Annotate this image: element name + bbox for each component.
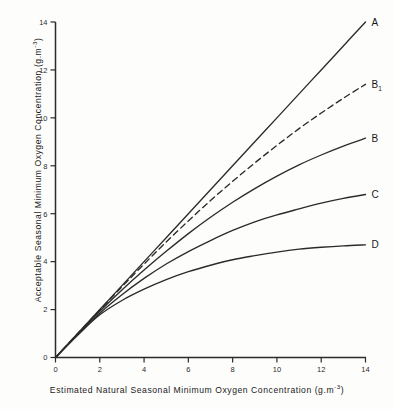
y-axis-title: Acceptable Seasonal Minimum Oxygen Conce… [31,38,43,303]
chart-figure: 02468101214 02468101214 AB1BCD Acceptabl… [0,0,394,409]
series-label-b: B [372,133,379,144]
series-end-labels: AB1BCD [372,17,383,251]
x-tick-label: 8 [231,365,235,374]
series-label-a: A [372,17,379,28]
series-line-a [56,22,366,358]
x-tick-label: 10 [273,365,281,374]
x-tick-label: 14 [361,365,369,374]
series-line-c [56,195,366,358]
y-axis-title-wrap: Acceptable Seasonal Minimum Oxygen Conce… [27,5,47,335]
series-label-b1: B1 [372,79,383,92]
x-tick-label: 2 [98,365,102,374]
x-tick-label: 4 [142,365,146,374]
series-label-c: C [372,189,379,200]
x-axis-ticks: 02468101214 [53,358,369,374]
x-axis-title: Estimated Natural Seasonal Minimum Oxyge… [0,383,394,395]
x-tick-label: 12 [317,365,325,374]
chart-plot-area: 02468101214 02468101214 AB1BCD [0,0,394,409]
series-line-d [56,245,366,358]
series-line-b1 [56,84,366,357]
y-tick-label: 0 [43,353,47,362]
x-tick-label: 0 [53,365,57,374]
series-label-d: D [372,239,379,250]
series-lines [56,22,366,358]
x-tick-label: 6 [186,365,190,374]
